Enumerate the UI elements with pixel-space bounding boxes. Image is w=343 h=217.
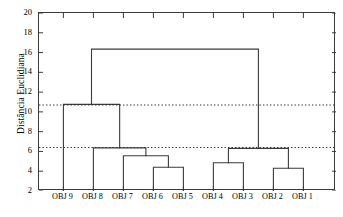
- y-tick-label: 2: [4, 186, 32, 195]
- y-tick-label: 4: [4, 166, 32, 175]
- dendrogram-links: [63, 49, 303, 191]
- y-tick-label: 12: [4, 87, 32, 96]
- dendrogram-figure: Distância Euclidiana 20 18 16 14 12 10 8…: [0, 0, 343, 217]
- y-tick-label: 6: [4, 146, 32, 155]
- link-obj7-cluster65: [123, 156, 168, 191]
- plot-area: [38, 12, 335, 190]
- y-tick-label: 14: [4, 67, 32, 76]
- link-root: [92, 49, 259, 148]
- y-tick-label: 10: [4, 107, 32, 116]
- x-axis-ticks: [63, 13, 303, 191]
- y-tick-label: 16: [4, 48, 32, 57]
- y-tick-label: 8: [4, 127, 32, 136]
- x-tick-label-obj1: OBJ 1: [282, 192, 322, 202]
- link-cluster43-cluster21: [228, 148, 288, 168]
- link-obj6-obj5: [153, 167, 183, 191]
- link-obj2-obj1: [273, 168, 303, 191]
- y-tick-label: 18: [4, 28, 32, 37]
- link-obj8-cluster765: [93, 148, 145, 191]
- link-obj4-obj3: [213, 163, 243, 191]
- threshold-lines: [39, 105, 336, 148]
- dendrogram-svg: [39, 13, 336, 191]
- y-tick-label: 20: [4, 8, 32, 17]
- y-axis-ticks: [39, 13, 336, 191]
